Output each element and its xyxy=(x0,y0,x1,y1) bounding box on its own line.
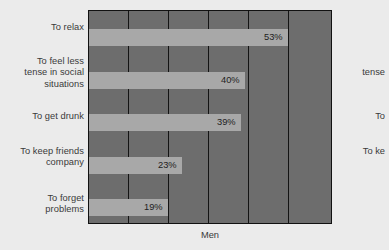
category-axis-labels: To relax To feel less tense in social si… xyxy=(0,10,84,224)
category-label-line: tense in social xyxy=(0,67,84,78)
category-label-line: To forget xyxy=(0,193,84,204)
category-label-line: To feel less xyxy=(0,56,84,67)
adjacent-label-to-ke: To ke xyxy=(340,146,385,157)
category-label-to-forget-problems: To forget problems xyxy=(0,193,84,216)
category-label-line: situations xyxy=(0,79,84,90)
plot-area: 53% 40% 39% 23% 19% xyxy=(88,10,332,224)
bar-chart-figure: To relax To feel less tense in social si… xyxy=(0,0,389,250)
adjacent-category-labels: tense To To ke xyxy=(340,10,385,224)
category-label-line: To relax xyxy=(0,22,84,33)
bar-to-relax xyxy=(89,29,288,46)
category-label-to-feel-less-tense: To feel less tense in social situations xyxy=(0,56,84,90)
category-label-to-get-drunk: To get drunk xyxy=(0,111,84,122)
adjacent-label-to: To xyxy=(340,111,385,122)
bar-value-to-get-drunk: 39% xyxy=(217,118,236,127)
bar-value-to-feel-less-tense: 40% xyxy=(221,76,240,85)
x-axis-title: Men xyxy=(88,230,332,240)
category-label-line: company xyxy=(0,157,84,168)
bar-value-to-forget-problems: 19% xyxy=(144,203,163,212)
bar-value-to-relax: 53% xyxy=(264,33,283,42)
category-label-to-relax: To relax xyxy=(0,22,84,33)
bar-value-to-keep-friends-company: 23% xyxy=(158,161,177,170)
category-label-line: problems xyxy=(0,204,84,215)
category-label-to-keep-friends-company: To keep friends company xyxy=(0,146,84,169)
adjacent-chart-panel: tense To To ke xyxy=(340,0,389,250)
adjacent-label-tense: tense xyxy=(340,67,385,78)
category-label-line: To keep friends xyxy=(0,146,84,157)
category-label-line: To get drunk xyxy=(0,111,84,122)
